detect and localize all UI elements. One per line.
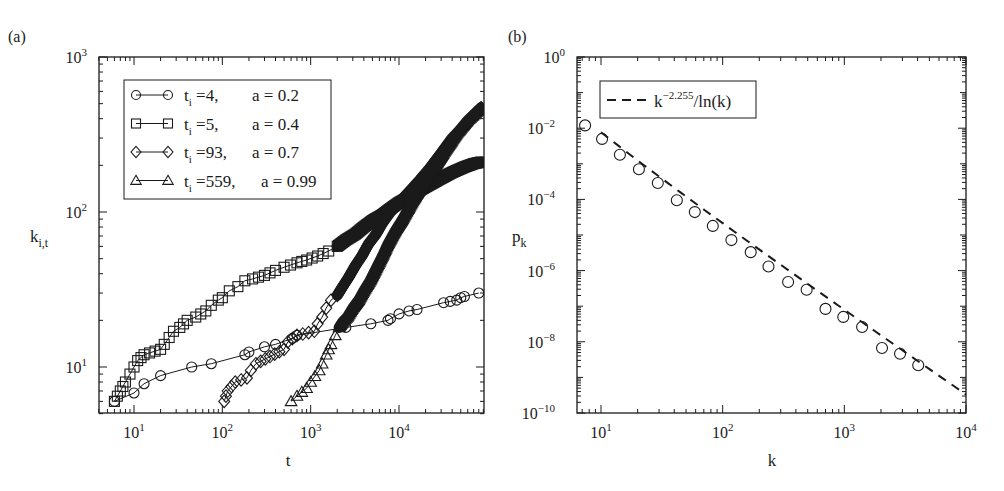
- data-point-circle: [877, 342, 888, 353]
- y-tick-label: 10−8: [527, 331, 555, 351]
- data-point-circle: [726, 235, 737, 246]
- data-point-circle: [652, 177, 663, 188]
- panel-b-degree-distribution-chart: (b) 10110210310410010−210−410−610−810−10…: [508, 28, 977, 470]
- fit-dashed-line: [601, 132, 966, 394]
- x-tick-label: 101: [590, 421, 612, 441]
- data-point-circle: [801, 284, 812, 295]
- x-tick-label: 102: [712, 421, 734, 441]
- data-point-circle: [689, 207, 700, 218]
- legend-a-label: a = 0.7: [252, 143, 299, 162]
- data-point-circle: [633, 164, 644, 175]
- panel-a-legend: ti =4,a = 0.2ti =5,a = 0.4ti =93,a = 0.7…: [124, 80, 331, 199]
- x-tick-label: 104: [955, 421, 977, 441]
- legend-a-label: a = 0.2: [252, 86, 299, 105]
- y-tick-label: 10−2: [527, 117, 555, 137]
- panel-a-degree-evolution-chart: (a) 101102103104101102103 t ki,t ti =4,a…: [8, 28, 487, 470]
- x-tick-label: 103: [834, 421, 856, 441]
- panel-b-legend: k−2.255/ln(k): [600, 81, 756, 118]
- svg-text:pk: pk: [512, 227, 527, 250]
- y-tick-label: 101: [66, 356, 88, 376]
- panel-b-series: [580, 120, 966, 395]
- data-point-circle: [820, 303, 831, 314]
- data-point-circle: [597, 133, 608, 144]
- y-tick-label: 100: [544, 46, 566, 66]
- panel-a-label: (a): [8, 28, 26, 46]
- x-tick-label: 103: [300, 421, 322, 441]
- panel-a-x-axis-label: t: [286, 451, 291, 470]
- x-tick-label: 104: [388, 421, 410, 441]
- data-point-circle: [671, 195, 682, 206]
- data-point-circle: [763, 261, 774, 272]
- legend-a-label: a = 0.4: [252, 115, 299, 134]
- legend-ti-label: ti =559,: [184, 172, 235, 194]
- y-tick-label: 102: [66, 201, 88, 221]
- legend-a-label: a = 0.99: [261, 172, 316, 191]
- data-point-circle: [580, 120, 591, 131]
- data-point-circle: [745, 247, 756, 258]
- data-point-circle: [783, 276, 794, 287]
- svg-text:ki,t: ki,t: [30, 227, 49, 250]
- y-tick-label: 10−4: [527, 188, 555, 208]
- panel-b-x-axis-label: k: [768, 451, 777, 470]
- panel-a-y-axis-label: ki,t: [30, 227, 49, 250]
- data-point-circle: [838, 311, 849, 322]
- x-tick-label: 102: [212, 421, 234, 441]
- data-point-circle: [707, 220, 718, 231]
- x-tick-label: 101: [123, 421, 145, 441]
- y-tick-label: 10−6: [527, 260, 555, 280]
- panel-b-label: (b): [508, 28, 527, 46]
- data-point-circle: [614, 149, 625, 160]
- data-point-circle: [895, 348, 906, 359]
- y-tick-label: 10−10: [522, 402, 556, 422]
- y-tick-label: 103: [66, 46, 88, 66]
- panel-b-y-axis-label: pk: [512, 227, 527, 250]
- figure: (a) 101102103104101102103 t ki,t ti =4,a…: [0, 0, 1004, 491]
